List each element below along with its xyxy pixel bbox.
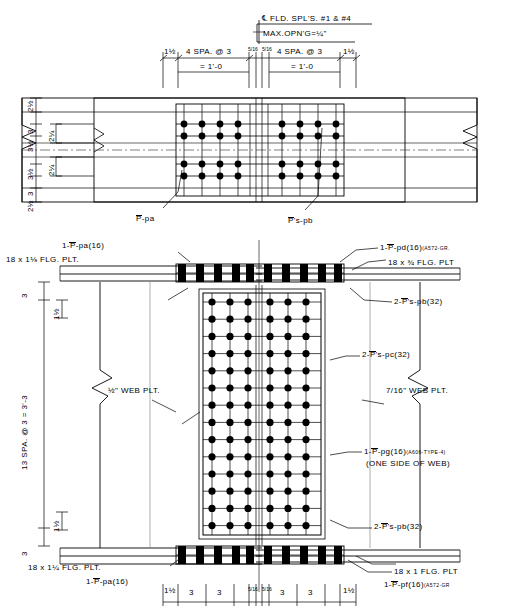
dim-vert-top: 3 [20,293,29,298]
label-web-plate-left: ½" WEB PLT. [108,386,160,395]
dim-vert-edge-bottom: 1½ [52,520,61,532]
plan-dim-left-1: 2½ [26,100,35,112]
drawing-sheet: ℄ FLD. SPL'S. #1 & #4 MAX.OPN'G=¼" 1½ 4 … [0,0,519,616]
bottom-dim-8: 1½ [343,586,355,595]
plan-dim-left-3: 3½ [26,140,35,152]
bottom-dim-6: 3 [280,588,285,597]
dim-top-left-end: 1½ [164,47,176,56]
label-2-pc-32: 2-P's-pc(32) [362,350,410,359]
label-1-pf-16: 1-P-pf(16)(A572-GR [384,580,450,589]
plan-dim-left-4: 3½ [26,168,35,180]
label-top-left-flange-plate: 18 x 1⅛ FLG. PLT. [6,255,79,264]
plan-dim-inner-2: 2¼ [47,164,56,176]
dim-top-right-end: 1½ [343,47,355,56]
label-bot-left-flange-plate: 18 x 1¼ FLG. PLT. [28,563,101,572]
dim-vert-bottom: 3 [20,551,29,556]
dim-top-spa-left-total: = 1'-0 [200,62,222,71]
dim-top-gap-left: 5/16 [248,46,258,52]
label-pg-one-side-note: (ONE SIDE OF WEB) [366,459,450,468]
label-1-pa-16-top: 1-P-pa(16) [62,241,104,250]
plan-dim-inner-1: 2¼ [47,130,56,142]
dim-vert-main: 13 SPA. @ 3 = 3'-3 [20,395,29,470]
label-top-right-flange-plate: 18 x ¾ FLG. PLT [388,258,454,267]
label-bot-right-flange-plate: 18 x 1 FLG. PLT [394,567,458,576]
label-2-pb-32-bottom: 2-P's-pb(32) [374,522,423,531]
bottom-dim-4: 5/16 [248,586,258,592]
bottom-dim-1: 1½ [164,586,176,595]
dim-top-spa-right-total: = 1'-0 [291,62,313,71]
plan-dim-left-2: 3 [26,129,35,134]
label-1-pd-16: 1-P-pd(16)(A572-GR. [380,243,450,252]
bottom-dim-7: 3 [308,588,313,597]
plan-dim-left-6: 2½ [26,200,35,212]
bottom-dim-2: 3 [189,588,194,597]
bottom-dim-3: 3 [217,588,222,597]
plan-dim-left-5: 3 [26,191,35,196]
dim-vert-edge-top: 1½ [52,308,61,320]
max-opening-note: MAX.OPN'G=¼" [263,29,327,38]
label-plate-pa-plan: P-pa [136,214,155,223]
label-web-plate-right: 7/16" WEB PLT. [386,386,448,395]
label-plate-pb-plan: P's-pb [288,216,313,225]
label-1-pg-16: 1-P-pg(16)(A606-TYPE-4) [364,447,446,456]
elevation-group [38,240,460,592]
dim-top-gap-right: 5/16 [262,46,272,52]
bottom-dim-5: 5/16 [262,586,272,592]
label-1-pa-16-bottom: 1-P-pa(16) [86,577,128,586]
drawing-canvas [0,0,519,616]
dim-top-spa-right: 4 SPA. @ 3 [277,47,322,56]
dim-top-spa-left: 4 SPA. @ 3 [186,47,231,56]
field-splice-note: ℄ FLD. SPL'S. #1 & #4 [262,14,351,23]
label-2-pb-32-top: 2-P's-pb(32) [394,297,443,306]
